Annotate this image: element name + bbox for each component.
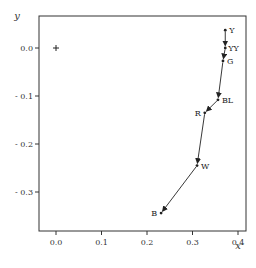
data-point	[203, 111, 206, 114]
point-label: B	[151, 209, 157, 218]
data-point	[224, 29, 227, 32]
arrow-segment	[163, 167, 197, 211]
arrow-segment	[218, 62, 222, 97]
data-point	[196, 164, 199, 167]
data-point	[217, 98, 220, 101]
arrow-segment	[197, 114, 204, 163]
y-tick-label: - 0.3	[15, 188, 33, 197]
x-tick-label: 0.3	[186, 238, 199, 247]
data-point	[222, 60, 225, 63]
x-tick-label: 0.0	[50, 238, 63, 247]
origin-plus-marker	[53, 45, 59, 51]
x-tick-label: 0.1	[95, 238, 108, 247]
y-axis-ticks: 0.0- 0.1- 0.2- 0.3	[15, 44, 39, 197]
y-tick-label: - 0.2	[15, 140, 33, 149]
plot-frame	[39, 16, 246, 231]
point-label: W	[201, 162, 210, 171]
x-tick-label: 0.2	[141, 238, 154, 247]
data-points: YYYGBLRWB	[151, 26, 239, 218]
point-label: YY	[227, 44, 239, 53]
data-point	[160, 212, 163, 215]
x-axis-label: x	[235, 240, 241, 251]
point-label: R	[195, 109, 202, 118]
point-label: Y	[228, 26, 235, 35]
arrow-path	[163, 32, 226, 211]
point-label: BL	[222, 96, 234, 105]
point-label: G	[227, 57, 233, 66]
arrow-segment	[207, 101, 217, 111]
y-tick-label: - 0.1	[15, 92, 33, 101]
y-tick-label: 0.0	[20, 44, 33, 53]
x-axis-ticks: 0.00.10.20.30.4	[50, 231, 245, 247]
scatter-chart: 0.00.10.20.30.4 0.0- 0.1- 0.2- 0.3 x y Y…	[0, 0, 256, 268]
data-point	[224, 47, 227, 50]
arrow-segment	[223, 49, 225, 58]
y-axis-label: y	[13, 10, 20, 21]
